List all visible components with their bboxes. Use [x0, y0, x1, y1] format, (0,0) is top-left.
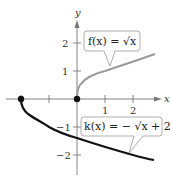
- y-axis-arrow-icon: [75, 20, 80, 28]
- k-callout-label: k(x) = − √x + 2: [84, 120, 171, 133]
- y-tick-label-1: 1: [62, 66, 68, 77]
- y-axis-label: y: [74, 7, 81, 18]
- f-start-point: [74, 96, 80, 102]
- x-axis-arrow-icon: [154, 97, 162, 102]
- f-curve: [77, 54, 155, 99]
- y-tick-label-2: 2: [62, 38, 68, 49]
- x-tick-label-1: 1: [102, 105, 108, 116]
- y-tick-label-neg2: −2: [56, 150, 71, 161]
- k-callout: k(x) = − √x + 2: [81, 117, 171, 153]
- graph: 1 2 2 1 −1 −2 x y f(x) = √x k(x) = − √x …: [0, 0, 172, 182]
- k-start-point: [18, 96, 24, 102]
- x-axis-label: x: [164, 93, 170, 104]
- f-callout-label: f(x) = √x: [88, 35, 137, 48]
- x-tick-label-2: 2: [130, 105, 136, 116]
- f-callout: f(x) = √x: [84, 31, 140, 66]
